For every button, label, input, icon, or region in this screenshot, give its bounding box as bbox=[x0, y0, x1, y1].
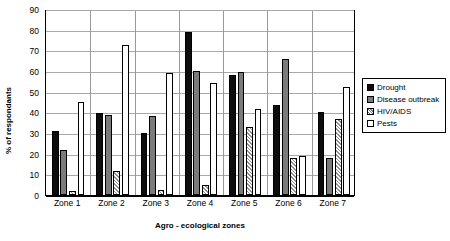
y-tick-label: 10 bbox=[30, 170, 39, 180]
x-tick-label-zone-4: Zone 4 bbox=[187, 198, 213, 208]
bar-zone-7-hiv-aids bbox=[335, 119, 342, 195]
bar-zone-4-disease-outbreak bbox=[193, 71, 200, 195]
bar-zone-2-hiv-aids bbox=[113, 171, 120, 195]
bar-zone-5-disease-outbreak bbox=[238, 72, 245, 195]
bar-zone-2-disease-outbreak bbox=[105, 115, 112, 195]
bar-group-zone-3 bbox=[135, 11, 179, 195]
bar-group-zone-7 bbox=[312, 11, 356, 195]
bar-zone-1-drought bbox=[52, 131, 59, 195]
bar-group-zone-6 bbox=[267, 11, 311, 195]
bar-zone-4-drought bbox=[185, 32, 192, 195]
x-tick-label-zone-2: Zone 2 bbox=[98, 198, 124, 208]
legend: DroughtDisease outbreakHIV/AIDSPests bbox=[362, 78, 446, 133]
x-tick-label-zone-1: Zone 1 bbox=[54, 198, 80, 208]
bar-zone-7-pests bbox=[343, 87, 350, 196]
bar-zone-3-disease-outbreak bbox=[149, 116, 156, 195]
bar-zone-7-drought bbox=[318, 112, 325, 195]
bar-zone-2-pests bbox=[122, 45, 129, 195]
y-tick-label: 70 bbox=[30, 46, 39, 56]
bar-zone-5-hiv-aids bbox=[246, 127, 253, 195]
bar-zone-6-drought bbox=[273, 105, 280, 195]
bar-group-zone-1 bbox=[46, 11, 90, 195]
y-tick-label: 60 bbox=[30, 67, 39, 77]
y-tick-label: 90 bbox=[30, 5, 39, 15]
bar-group-zone-4 bbox=[179, 11, 223, 195]
y-tick-label: 80 bbox=[30, 26, 39, 36]
y-tick-label: 40 bbox=[30, 108, 39, 118]
legend-label: Pests bbox=[377, 120, 397, 128]
y-tick-label: 20 bbox=[30, 150, 39, 160]
legend-swatch-hiv-aids-icon bbox=[367, 108, 374, 115]
bar-zone-4-hiv-aids bbox=[202, 185, 209, 195]
x-tick-label-zone-3: Zone 3 bbox=[142, 198, 168, 208]
bar-zone-1-hiv-aids bbox=[69, 191, 76, 195]
bar-zone-3-drought bbox=[141, 133, 148, 195]
bar-zone-5-pests bbox=[255, 109, 262, 195]
y-tick-label: 50 bbox=[30, 88, 39, 98]
bar-zone-1-disease-outbreak bbox=[60, 150, 67, 195]
plot-area bbox=[45, 10, 355, 196]
y-tick-label: 30 bbox=[30, 129, 39, 139]
bar-group-zone-2 bbox=[90, 11, 134, 195]
y-tick-label: 0 bbox=[34, 191, 39, 201]
x-tick-label-zone-7: Zone 7 bbox=[320, 198, 346, 208]
bar-zone-3-pests bbox=[166, 73, 173, 195]
bar-zone-7-disease-outbreak bbox=[326, 158, 333, 195]
y-axis-tick-labels: 0102030405060708090 bbox=[16, 10, 42, 196]
x-tick-label-zone-6: Zone 6 bbox=[275, 198, 301, 208]
bar-group-zone-5 bbox=[223, 11, 267, 195]
bar-zone-4-pests bbox=[210, 83, 217, 195]
legend-label: Disease outbreak bbox=[377, 96, 439, 104]
bar-zone-2-drought bbox=[96, 113, 103, 195]
legend-swatch-drought-icon bbox=[367, 84, 374, 91]
bar-chart: % of respondants 0102030405060708090 Zon… bbox=[0, 0, 450, 241]
x-axis-tick-labels: Zone 1Zone 2Zone 3Zone 4Zone 5Zone 6Zone… bbox=[45, 198, 355, 212]
bar-zone-5-drought bbox=[229, 75, 236, 195]
y-axis-title: % of respondants bbox=[0, 0, 16, 241]
bar-zone-6-pests bbox=[299, 156, 306, 195]
bar-zone-1-pests bbox=[78, 102, 85, 195]
bar-zone-3-hiv-aids bbox=[158, 190, 165, 195]
legend-label: Drought bbox=[377, 84, 405, 92]
legend-label: HIV/AIDS bbox=[377, 108, 411, 116]
bar-zone-6-hiv-aids bbox=[290, 158, 297, 195]
legend-item-hiv-aids[interactable]: HIV/AIDS bbox=[367, 106, 442, 117]
bars-layer bbox=[46, 11, 354, 195]
legend-swatch-disease-outbreak-icon bbox=[367, 96, 374, 103]
legend-item-drought[interactable]: Drought bbox=[367, 82, 442, 93]
legend-item-pests[interactable]: Pests bbox=[367, 118, 442, 129]
bar-zone-6-disease-outbreak bbox=[282, 59, 289, 195]
gridline bbox=[46, 196, 354, 197]
x-tick-label-zone-5: Zone 5 bbox=[231, 198, 257, 208]
legend-item-disease-outbreak[interactable]: Disease outbreak bbox=[367, 94, 442, 105]
x-axis-title: Agro - ecological zones bbox=[45, 221, 355, 230]
legend-swatch-pests-icon bbox=[367, 120, 374, 127]
